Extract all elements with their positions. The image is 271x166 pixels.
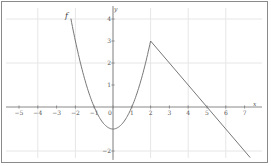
x-tick-label: −4 xyxy=(33,109,42,116)
x-tick-label: 7 xyxy=(243,109,247,116)
x-tick-label: 3 xyxy=(167,109,171,116)
function-plot: −5−4−3−2−101234567−21234xyf xyxy=(0,0,271,166)
x-tick-label: −5 xyxy=(15,109,24,116)
x-tick-label: 0 xyxy=(108,109,112,116)
y-axis-label: y xyxy=(113,5,118,13)
x-tick-label: 2 xyxy=(149,109,153,116)
x-axis-label: x xyxy=(253,100,257,107)
x-tick-label: −2 xyxy=(71,109,80,116)
x-tick-label: 6 xyxy=(224,109,228,116)
y-tick-label: 2 xyxy=(107,59,111,66)
x-tick-label: −1 xyxy=(90,109,99,116)
y-tick-label: 1 xyxy=(107,81,111,88)
x-tick-label: 5 xyxy=(205,109,209,116)
y-tick-label: −2 xyxy=(102,147,111,154)
x-tick-label: −3 xyxy=(52,109,61,116)
function-curve xyxy=(71,19,250,158)
x-tick-label: 4 xyxy=(186,109,190,116)
y-tick-label: 4 xyxy=(107,15,111,22)
y-tick-label: 3 xyxy=(107,37,111,44)
